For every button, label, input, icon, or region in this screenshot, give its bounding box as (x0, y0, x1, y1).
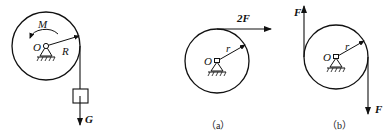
force-up-label: F (293, 6, 302, 18)
center-label: O (33, 41, 41, 53)
figure-main: M R O G (12, 12, 93, 125)
figure-a: 2F r O （a） (185, 12, 271, 131)
caption-a: （a） (206, 120, 230, 131)
radius-line-b (336, 41, 364, 57)
force-down-label: F (374, 103, 383, 115)
moment-arrow-icon (30, 29, 58, 38)
radius-line-a (217, 45, 245, 61)
center-label-a: O (204, 55, 212, 67)
force-2f-label: 2F (236, 12, 251, 24)
center-label-b: O (323, 51, 331, 63)
radius-label-a: r (226, 42, 231, 54)
figure-b: F F r O （b） (293, 6, 383, 131)
radius-label: R (61, 45, 69, 57)
caption-b: （b） (327, 120, 352, 131)
moment-label: M (37, 18, 48, 30)
radius-label-b: r (345, 40, 350, 52)
pulley-diagrams: M R O G 2F r (0, 0, 390, 138)
weight-label: G (85, 113, 93, 125)
